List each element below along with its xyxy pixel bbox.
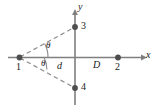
point-label-3: 3 [81,21,86,31]
point-label-4: 4 [81,82,86,92]
geometry-figure: x y 1 2 3 4 d D θ θ [0,0,156,112]
point-label-1: 1 [16,62,21,72]
point-marker-1 [17,55,23,61]
figure-canvas [0,0,156,112]
y-axis-label: y [78,2,82,12]
angle-label-theta-lower: θ [41,59,45,68]
dashed-segment-1-to-4 [20,58,75,88]
distance-label-D: D [93,60,100,70]
angle-label-theta-upper: θ [46,41,50,50]
point-marker-3 [72,24,78,30]
point-label-2: 2 [115,62,120,72]
distance-label-d: d [57,61,62,71]
x-axis-label: x [146,50,150,60]
point-marker-2 [115,55,121,61]
point-marker-4 [72,85,78,91]
